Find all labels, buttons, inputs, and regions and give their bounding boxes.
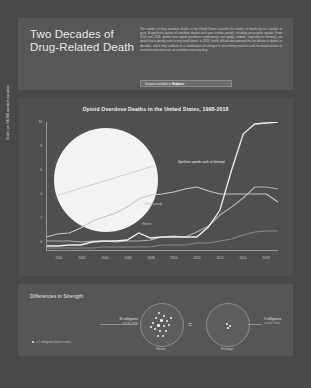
fentanyl-dose-sub: can be lethal [264,321,311,325]
heroin-dose-sub: can be lethal [80,321,138,325]
line-chart-svg [46,122,278,250]
equals-sign: = [188,321,192,328]
series-line-other-opioids [46,187,278,237]
x-tick-2016: 2016 [235,256,251,260]
annotation-other-opioids: Other opioids [144,202,162,206]
x-tick-2010: 2010 [166,256,182,260]
dataset-badge[interactable]: Dataset available in Seaborn [140,80,232,87]
annotation-synthetic-opioids-text: Synthetic opioids such as fentanyl [178,160,225,164]
annotation-heroin: Heroin [142,222,151,226]
x-tick-2004: 2004 [97,256,113,260]
y-axis-line [46,122,47,250]
fentanyl-label: Fentanyl [197,347,257,351]
fentanyl-dose: 3 milligrams can be lethal [264,317,311,325]
y-tick-1: 8 [30,144,42,148]
strength-panel: Differences in Strength 30 milligrams ca… [18,284,293,356]
annotation-synthetic-opioids: Synthetic opioids such as fentanyl [178,160,225,164]
y-tick-0: 10 [30,120,42,124]
x-tick-2002: 2002 [74,256,90,260]
x-tick-2000: 2000 [51,256,67,260]
fentanyl-circle [206,303,250,347]
header-panel: Two Decades of Drug-Related Death The nu… [18,18,293,90]
scale-footnote: = 1 milligram (not to scale) [32,340,71,344]
milligram-dot-icon [32,341,34,343]
dataset-badge-source: Seaborn [172,82,184,86]
strength-title: Differences in Strength [30,293,83,299]
scale-footnote-text: = 1 milligram (not to scale) [36,340,71,344]
x-tick-2006: 2006 [120,256,136,260]
plot-area: Synthetic opioids such as fentanyl Other… [46,122,278,250]
y-tick-5: 0 [30,240,42,244]
right-leader-line [248,324,262,325]
intro-paragraph: The number of drug overdose deaths in th… [140,27,282,52]
chart-panel: Opioid Overdose Deaths in the United Sta… [18,98,293,276]
x-tick-2008: 2008 [143,256,159,260]
page-title: Two Decades of Drug-Related Death [30,28,135,54]
dataset-badge-label: Dataset available in [145,82,171,86]
y-tick-4: 2 [30,216,42,220]
heroin-label: Heroin [131,347,191,351]
x-tick-2012: 2012 [189,256,205,260]
heroin-dose: 30 milligrams can be lethal [80,317,138,325]
y-tick-2: 6 [30,168,42,172]
y-axis-label: Deaths per 100,000 standard population [6,50,10,140]
x-axis-line [46,250,278,251]
series-line-heroin [46,187,278,242]
y-tick-3: 4 [30,192,42,196]
x-tick-2014: 2014 [212,256,228,260]
x-tick-2018: 2018 [258,256,274,260]
infographic-page: Two Decades of Drug-Related Death The nu… [0,0,311,388]
heroin-circle [140,303,184,347]
chart-title: Opioid Overdose Deaths in the United Sta… [18,106,293,112]
